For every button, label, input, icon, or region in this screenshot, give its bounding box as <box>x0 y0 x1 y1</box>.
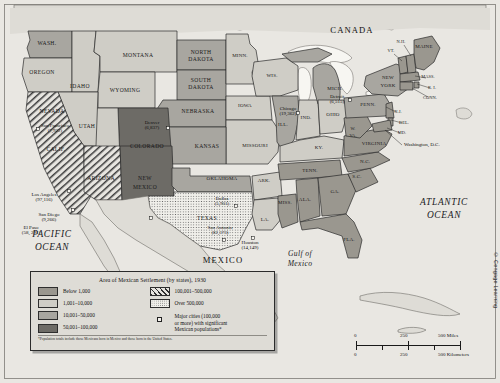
state-connecticut[interactable] <box>400 82 413 90</box>
city-marker-san-francisco[interactable] <box>37 128 40 131</box>
state-label-virginia-38: VIRGINIA <box>362 141 387 146</box>
city-name-san-diego: San Diego <box>39 212 60 217</box>
state-iowa[interactable] <box>226 96 272 120</box>
state-label-texas-28: TEXAS <box>197 215 217 221</box>
label-del: DEL. <box>399 120 409 125</box>
state-label-colorado-11: COLORADO <box>130 143 164 149</box>
state-rhode-island[interactable] <box>414 82 419 88</box>
legend-label-over-500-000: Over 500,000 <box>175 301 204 307</box>
city-marker-houston[interactable] <box>252 237 255 240</box>
state-label-utah-10: UTAH <box>79 123 96 129</box>
state-label-nevada-9: NEVADA <box>40 108 65 114</box>
city-marker-san-diego[interactable] <box>72 209 75 212</box>
legend-major-cities-entry: Major cities (100,000 or more) with sign… <box>150 313 267 332</box>
city-name-el-paso: El Paso <box>23 225 39 230</box>
state-label-oregon-1: OREGON <box>29 69 54 75</box>
state-label-ky-22: KY. <box>315 145 323 150</box>
state-new-mexico[interactable] <box>120 146 174 200</box>
state-indiana[interactable] <box>296 100 320 140</box>
legend-label-1-001-10-000: 1,001–10,000 <box>63 301 92 307</box>
state-label-dakota-7: DAKOTA <box>188 84 213 90</box>
legend-label-50-001-100-000: 50,001–100,000 <box>63 325 97 331</box>
state-label-wis-16: WIS. <box>266 73 277 78</box>
state-label-york-43: YORK <box>381 83 396 88</box>
city-marker-el-paso[interactable] <box>150 217 153 220</box>
country-label-mexico: MEXICO <box>203 255 244 265</box>
state-north-dakota[interactable] <box>177 40 226 70</box>
state-label-oklahoma-27: OKLAHOMA <box>207 176 238 181</box>
legend-swatch-100-001-500-000 <box>150 287 170 296</box>
legend-item-right-0: 100,001–500,000 <box>150 287 267 296</box>
state-label-missouri-17: MISSOURI <box>242 143 268 148</box>
scale-km-tick-0: 0 <box>354 352 357 357</box>
map-figure: CANADAMEXICO PACIFICOCEANATLANTICOCEANGu… <box>0 0 500 383</box>
legend-swatch-10-001-50-000 <box>38 311 58 320</box>
state-arkansas[interactable] <box>252 172 282 200</box>
city-marker-dallas[interactable] <box>235 205 238 208</box>
state-arizona[interactable] <box>84 146 122 200</box>
state-label-va-40: VA. <box>349 133 356 138</box>
label-conn: CONN. <box>423 95 437 100</box>
map-legend: Area of Mexican Settlement (by states), … <box>30 271 275 351</box>
state-label-ill-18: ILL. <box>278 122 288 127</box>
city-marker-denver[interactable] <box>167 127 170 130</box>
city-name-los-angeles: Los Angeles <box>32 192 57 197</box>
legend-title: Area of Mexican Settlement (by states), … <box>38 277 267 283</box>
state-massachusetts[interactable] <box>400 72 420 82</box>
state-label-w-39: W. <box>350 126 355 131</box>
city-marker-detroit[interactable] <box>349 99 352 102</box>
state-label-new-42: NEW <box>382 75 394 80</box>
scale-miles-tick-0: 0 <box>354 333 357 338</box>
city-name-dallas: Dallas <box>216 196 229 201</box>
state-label-mexico-26: MEXICO <box>133 184 157 190</box>
legend-swatch-below-1-000 <box>38 287 58 296</box>
legend-swatch-50-001-100-000 <box>38 324 58 333</box>
state-label-fla-35: FLA. <box>343 237 355 242</box>
state-label-south-6: SOUTH <box>191 77 211 83</box>
city-name-houston: Houston <box>242 240 259 245</box>
state-label-ga-34: GA. <box>330 189 339 194</box>
scale-km-tick-1: 250 <box>400 352 408 357</box>
city-name-chicago: Chicago <box>280 106 297 111</box>
label-n-j: N.J. <box>394 109 401 114</box>
water-label-atlantic-2: ATLANTIC <box>419 197 468 207</box>
state-missouri[interactable] <box>226 120 280 164</box>
state-label-la-30: LA. <box>261 217 270 222</box>
legend-city-line-2: or more) with significant <box>175 320 228 326</box>
city-marker-san-antonio[interactable] <box>223 239 226 242</box>
legend-city-line-1: Major cities (100,000 <box>175 313 221 319</box>
scale-km-labels: 0250500 Kilometers <box>352 352 470 358</box>
water-label-gulf-of-4: Gulf of <box>288 249 313 258</box>
scale-miles-tick-1: 250 <box>400 333 408 338</box>
state-label-mich-20: MICH. <box>327 86 342 91</box>
water-label-ocean-3: OCEAN <box>427 210 461 220</box>
state-label-ind-19: IND. <box>301 115 312 120</box>
legend-label-10-001-50-000: 10,001–50,000 <box>63 313 95 319</box>
state-label-north-4: NORTH <box>191 49 212 55</box>
city-name-san-francisco: San Francisco <box>41 123 70 128</box>
copyright-notice: © Cengage Learning <box>493 252 499 308</box>
legend-item-left-0: Below 1,000 <box>38 287 146 296</box>
state-oregon[interactable] <box>22 58 72 92</box>
label-mass: MASS. <box>421 74 435 79</box>
country-label-canada: CANADA <box>330 25 373 35</box>
city-name-san-antonio: San Antonio <box>208 225 233 230</box>
state-label-penn-41: PENN. <box>360 102 375 107</box>
state-label-nebraska-12: NEBRASKA <box>182 108 215 114</box>
state-label-miss-31: MISS. <box>278 200 292 205</box>
legend-column-right: 100,001–500,000Over 500,000 Major cities… <box>150 287 267 333</box>
state-label-wash-0: WASH. <box>38 40 57 46</box>
legend-item-left-1: 1,001–10,000 <box>38 299 146 308</box>
scale-bar-graphic <box>352 339 470 352</box>
scale-km-tick-2: 500 Kilometers <box>438 352 469 357</box>
state-label-iowa-15: IOWA <box>238 103 252 108</box>
water-label-mexico-5: Mexico <box>287 259 313 268</box>
city-marker-chicago[interactable] <box>297 112 300 115</box>
legend-item-left-2: 10,001–50,000 <box>38 311 146 320</box>
legend-column-left: Below 1,0001,001–10,00010,001–50,00050,0… <box>38 287 146 333</box>
scale-miles-tick-2: 500 Miles <box>438 333 458 338</box>
state-label-ark-29: ARK. <box>258 178 271 183</box>
legend-item-right-1: Over 500,000 <box>150 299 267 308</box>
legend-footnote: *Population totals include those Mexican… <box>38 335 267 341</box>
city-marker-los-angeles[interactable] <box>68 190 71 193</box>
